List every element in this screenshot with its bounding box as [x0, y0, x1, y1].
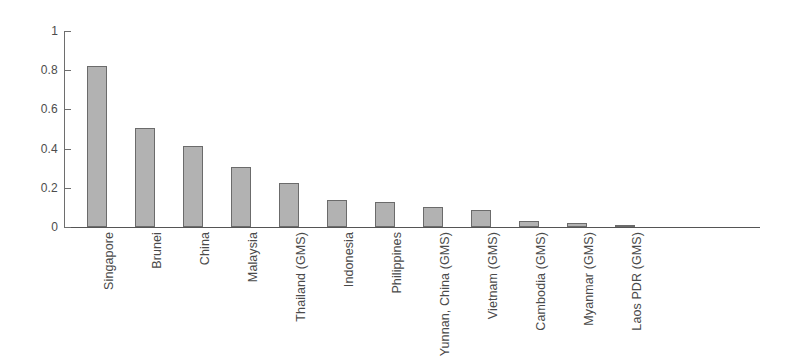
bar [87, 66, 107, 227]
category-label: Laos PDR (GMS) [630, 232, 644, 361]
category-label: Indonesia [342, 232, 356, 361]
bar [231, 167, 251, 227]
category-label: Yunnan, China (GMS) [438, 232, 452, 361]
bar [135, 128, 155, 227]
y-tick-label: 0.6 [18, 109, 58, 110]
bar-chart: 00.20.40.60.81 SingaporeBruneiChinaMalay… [0, 0, 789, 361]
category-label: China [198, 232, 212, 361]
category-label: Philippines [390, 232, 404, 361]
bar [279, 183, 299, 227]
y-tick-mark [64, 227, 71, 228]
bars-layer [64, 31, 760, 227]
y-tick-label: 1 [18, 31, 58, 32]
category-label: Cambodia (GMS) [534, 232, 548, 361]
category-label: Myanmar (GMS) [582, 232, 596, 361]
category-label: Vietnam (GMS) [486, 232, 500, 361]
bar [375, 202, 395, 227]
y-tick-label: 0.4 [18, 149, 58, 150]
category-label: Malaysia [246, 232, 260, 361]
bar [615, 225, 635, 227]
bar [567, 223, 587, 227]
bar [423, 207, 443, 227]
category-label: Thailand (GMS) [294, 232, 308, 361]
y-tick-label: 0 [18, 227, 58, 228]
bar [183, 146, 203, 227]
category-label: Brunei [150, 232, 164, 361]
y-tick-label: 0.2 [18, 188, 58, 189]
bar [327, 200, 347, 227]
x-axis-category-labels: SingaporeBruneiChinaMalaysiaThailand (GM… [64, 232, 760, 361]
bar [471, 210, 491, 227]
category-label: Singapore [102, 232, 116, 361]
x-axis-line [64, 227, 760, 228]
y-tick-label: 0.8 [18, 70, 58, 71]
bar [519, 221, 539, 227]
